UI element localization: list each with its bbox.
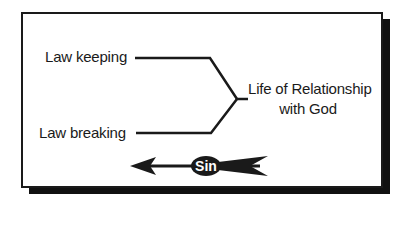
law-keeping-connector [135, 58, 237, 99]
sin-label: Sin [195, 158, 217, 174]
law-breaking-label: Law breaking [39, 124, 126, 141]
relationship-label-line1: Life of Relationship [248, 79, 368, 99]
relationship-label: Life of Relationship with God [248, 79, 368, 119]
relationship-label-line2: with God [248, 99, 368, 119]
law-keeping-label: Law keeping [45, 48, 127, 65]
law-breaking-connector [136, 99, 237, 133]
